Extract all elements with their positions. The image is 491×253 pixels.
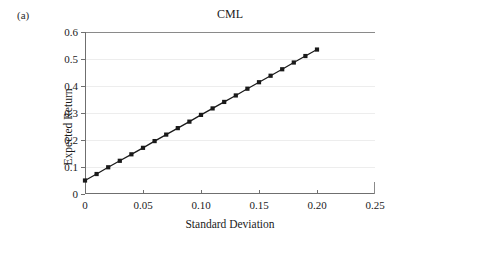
y-axis-title: Expected Return <box>62 88 74 165</box>
series-marker <box>118 159 122 163</box>
y-tick-label: 0.6 <box>64 27 78 38</box>
x-axis-title: Standard Deviation <box>85 218 375 230</box>
y-tick-label: 0.1 <box>64 162 78 173</box>
y-tick-label: 0.5 <box>64 54 78 65</box>
series-marker <box>164 133 168 137</box>
y-tick-label: 0.4 <box>64 81 78 92</box>
series-marker <box>129 152 133 156</box>
series-marker <box>303 54 307 58</box>
series-marker <box>95 172 99 176</box>
series-marker <box>199 113 203 117</box>
series-marker <box>176 126 180 130</box>
series-marker <box>234 93 238 97</box>
chart-title: CML <box>85 8 375 20</box>
series-marker <box>269 74 273 78</box>
y-tick-label: 0.3 <box>64 108 78 119</box>
x-tick-label: 0.10 <box>191 200 210 211</box>
x-tick-label: 0.20 <box>307 200 326 211</box>
series-marker <box>153 139 157 143</box>
data-series-cml <box>85 32 375 194</box>
series-marker <box>141 146 145 150</box>
panel-label: (a) <box>17 10 29 21</box>
series-marker <box>315 47 319 51</box>
x-tick-label: 0 <box>82 200 88 211</box>
y-tick-label: 0.2 <box>64 135 78 146</box>
plot-area: 00.10.20.30.40.50.6 00.050.100.150.200.2… <box>85 32 375 194</box>
series-marker <box>280 67 284 71</box>
series-marker <box>257 80 261 84</box>
x-tick-label: 0.25 <box>365 200 384 211</box>
x-tick-label: 0.15 <box>249 200 268 211</box>
series-marker <box>83 178 87 182</box>
series-marker <box>187 120 191 124</box>
series-marker <box>106 165 110 169</box>
series-marker <box>245 87 249 91</box>
series-marker <box>222 100 226 104</box>
series-marker <box>292 60 296 64</box>
y-tick-mark <box>81 194 85 195</box>
series-marker <box>211 106 215 110</box>
x-tick-label: 0.05 <box>133 200 152 211</box>
y-tick-label: 0 <box>73 189 79 200</box>
